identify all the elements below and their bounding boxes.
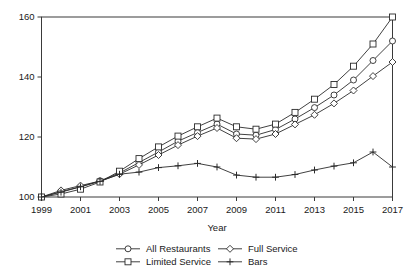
plus-marker — [194, 160, 201, 167]
square-marker — [273, 121, 279, 127]
x-axis-title: Year — [207, 222, 226, 233]
plus-marker — [136, 169, 143, 176]
x-tick-label: 2009 — [226, 204, 247, 215]
plus-marker — [331, 163, 338, 170]
x-tick-label: 2005 — [148, 204, 169, 215]
series-bars — [38, 149, 396, 201]
plus-marker — [233, 172, 240, 179]
y-tick-label: 140 — [19, 71, 35, 82]
circle-marker — [370, 58, 376, 64]
x-tick-label: 1999 — [31, 204, 52, 215]
square-marker — [136, 156, 142, 162]
circle-marker — [125, 246, 131, 252]
square-marker — [175, 133, 181, 139]
square-marker — [214, 115, 220, 121]
x-tick-label: 2003 — [109, 204, 130, 215]
chart-legend: All RestaurantsFull ServiceLimited Servi… — [116, 243, 298, 267]
x-tick-label: 2001 — [70, 204, 91, 215]
legend-item-bars[interactable]: Bars — [218, 256, 268, 267]
plus-marker — [227, 258, 234, 265]
series-full-service — [38, 59, 396, 201]
y-axis: 100120140160 — [19, 11, 42, 202]
square-marker — [331, 82, 337, 88]
plus-marker — [350, 159, 357, 166]
plus-marker — [214, 164, 221, 171]
square-marker — [351, 63, 357, 69]
series-line — [42, 152, 393, 197]
plus-marker — [253, 174, 260, 181]
square-marker — [195, 124, 201, 130]
diamond-marker — [370, 73, 377, 80]
line-chart: 1001201401601999200120032005200720092011… — [0, 0, 408, 277]
plus-marker — [272, 174, 279, 181]
x-tick-label: 2017 — [382, 204, 403, 215]
y-tick-label: 100 — [19, 191, 35, 202]
x-tick-label: 2011 — [265, 204, 285, 215]
square-marker — [370, 41, 376, 47]
diamond-marker — [331, 100, 338, 107]
legend-item-full-service[interactable]: Full Service — [218, 243, 298, 254]
legend-label: Limited Service — [146, 256, 211, 267]
square-marker — [125, 259, 131, 265]
circle-marker — [312, 105, 318, 111]
legend-label: Bars — [248, 256, 268, 267]
square-marker — [156, 144, 162, 150]
diamond-marker — [227, 245, 234, 252]
y-tick-label: 160 — [19, 11, 35, 22]
square-marker — [253, 126, 259, 132]
legend-label: Full Service — [248, 243, 298, 254]
diamond-marker — [350, 87, 357, 94]
circle-marker — [351, 77, 357, 83]
diamond-marker — [292, 121, 299, 128]
plus-marker — [311, 167, 318, 174]
legend-item-limited-service[interactable]: Limited Service — [116, 256, 211, 267]
x-tick-label: 2013 — [304, 204, 325, 215]
square-marker — [234, 124, 240, 130]
cropped-caption-fragment — [0, 0, 408, 9]
y-tick-label: 120 — [19, 131, 35, 142]
legend-item-all-restaurants[interactable]: All Restaurants — [116, 243, 211, 254]
circle-marker — [331, 92, 337, 98]
plus-marker — [175, 162, 182, 169]
diamond-marker — [311, 111, 318, 118]
plus-marker — [155, 164, 162, 171]
square-marker — [312, 96, 318, 102]
x-tick-label: 2015 — [343, 204, 364, 215]
chart-container: 1001201401601999200120032005200720092011… — [0, 0, 408, 277]
square-marker — [292, 109, 298, 115]
square-marker — [390, 14, 396, 20]
legend-label: All Restaurants — [146, 243, 211, 254]
x-axis: 1999200120032005200720092011201320152017 — [31, 197, 403, 215]
plus-marker — [292, 171, 299, 178]
diamond-marker — [389, 59, 396, 66]
series-limited-service — [39, 14, 396, 200]
x-tick-label: 2007 — [187, 204, 208, 215]
circle-marker — [390, 38, 396, 44]
